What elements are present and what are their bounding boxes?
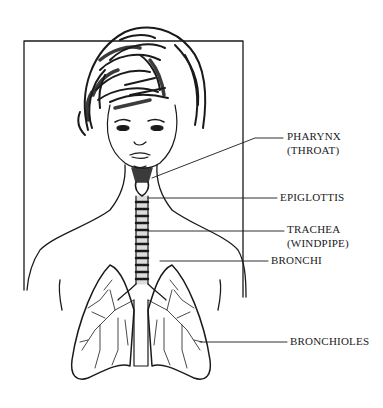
face-drawing [107, 105, 176, 168]
pharynx-drawing [132, 168, 152, 196]
label-bronchioles: BRONCHIOLES [290, 335, 369, 348]
label-trachea: TRACHEA [287, 223, 340, 236]
label-bronchi: BRONCHI [271, 254, 322, 267]
pharynx-leader [152, 138, 283, 178]
respiratory-system-diagram: PHARYNX (THROAT) EPIGLOTTIS TRACHEA (WIN… [0, 0, 383, 408]
hair-drawing [78, 28, 205, 135]
label-pharynx: PHARYNX [287, 130, 341, 143]
right-lung-drawing [148, 265, 210, 379]
left-lung-drawing [72, 265, 134, 379]
trachea-drawing [136, 196, 148, 284]
label-epiglottis: EPIGLOTTIS [280, 191, 344, 204]
label-trachea-sub: (WINDPIPE) [287, 237, 349, 250]
label-pharynx-sub: (THROAT) [287, 144, 339, 157]
